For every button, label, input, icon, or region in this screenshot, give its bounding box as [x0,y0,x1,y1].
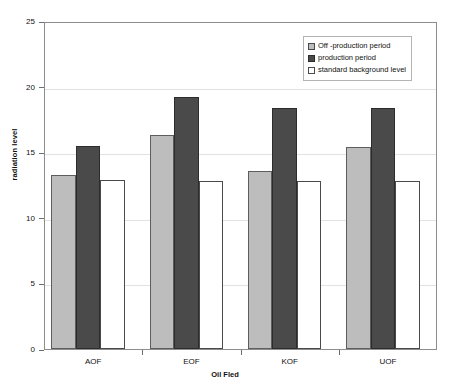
y-axis-tick-label: 25 [26,17,35,27]
y-axis-tick: 15 [0,148,44,158]
bar [346,147,371,349]
bar [395,181,420,349]
y-axis-tick: 25 [0,17,44,27]
y-axis-tick-mark [39,87,44,88]
bar [371,108,396,349]
y-axis-tick-label: 0 [31,345,35,355]
y-axis-tick-label: 15 [26,148,35,158]
bar-chart: radiation level 0510152025 AOFEOFKOFUOF … [0,0,450,390]
legend-item: production period [308,52,406,64]
x-axis-tick-mark [339,350,340,355]
y-axis-tick-label: 5 [31,279,35,289]
y-axis-tick-mark [39,22,44,23]
legend-swatch-icon [308,55,315,62]
y-axis-tick-label: 10 [26,214,35,224]
y-axis-tick-mark [39,218,44,219]
legend-item-label: production period [318,53,376,63]
bar [248,171,273,349]
x-axis-title: Oil Fled [0,370,450,379]
y-axis-tick-mark [39,350,44,351]
y-axis-tick: 5 [0,279,44,289]
y-axis-tick: 10 [0,214,44,224]
legend-swatch-icon [308,43,315,50]
x-axis-category-label: AOF [48,357,138,366]
bar-group [143,23,241,349]
y-axis-tick: 0 [0,345,44,355]
bar-group [45,23,143,349]
legend-item-label: standard background level [318,65,406,75]
bar [76,146,101,349]
bar [174,97,199,349]
y-axis-tick-mark [39,153,44,154]
x-axis-category-label: EOF [146,357,236,366]
bar [199,181,224,349]
x-axis-category-label: UOF [343,357,433,366]
y-axis-tick-mark [39,284,44,285]
y-axis-tick: 20 [0,83,44,93]
legend-swatch-icon [308,67,315,74]
x-axis-tick-mark [142,350,143,355]
legend-item-label: Off -production period [318,41,390,51]
x-axis-category-label: KOF [245,357,335,366]
bar [100,180,125,349]
bar [150,135,175,349]
legend-item: standard background level [308,64,406,76]
x-axis-tick-mark [241,350,242,355]
chart-legend: Off -production periodproduction periods… [303,36,412,81]
y-axis-tick-label: 20 [26,83,35,93]
bar [272,108,297,349]
bar [297,181,322,349]
legend-item: Off -production period [308,40,406,52]
bar [51,175,76,349]
